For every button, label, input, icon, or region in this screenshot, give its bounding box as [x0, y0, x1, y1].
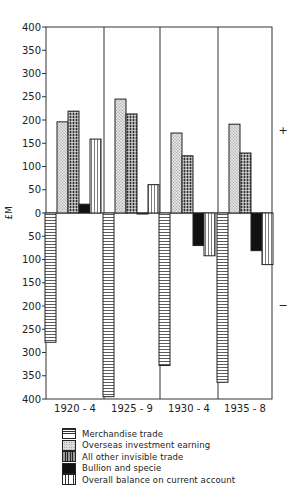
x-tick-label: 1925 - 9	[111, 403, 153, 414]
bar-overall-balance-on-current-account	[90, 139, 101, 213]
y-tick-label: 400	[22, 394, 41, 405]
y-tick-label: 50	[28, 231, 41, 242]
legend: Merchandise tradeOverseas investment ear…	[62, 428, 235, 486]
legend-label: All other invisible trade	[82, 452, 183, 462]
y-tick-label: 250	[22, 324, 41, 335]
bar-chart: 4003503002502001501005005010015020025030…	[0, 0, 294, 425]
bar-overseas-investment-earning	[229, 124, 240, 213]
bar-overseas-investment-earning	[57, 122, 68, 213]
bar-overall-balance-on-current-account	[262, 213, 273, 265]
x-tick-label: 1920 - 4	[54, 403, 96, 414]
legend-item: All other invisible trade	[62, 451, 235, 463]
bar-all-other-invisible-trade	[182, 156, 193, 213]
y-tick-label: 150	[22, 138, 41, 149]
legend-item: Overall balance on current account	[62, 474, 235, 486]
bar-merchandise-trade	[45, 213, 56, 342]
legend-label: Overseas investment earning	[82, 440, 210, 450]
bar-merchandise-trade	[217, 213, 228, 382]
legend-label: Bullion and specie	[82, 463, 161, 473]
y-tick-label: 200	[22, 115, 41, 126]
legend-swatch	[62, 451, 76, 462]
y-tick-label: 300	[22, 68, 41, 79]
y-tick-label: 400	[22, 22, 41, 33]
y-tick-label: 50	[28, 184, 41, 195]
bar-overseas-investment-earning	[171, 133, 182, 213]
bar-bullion-and-specie	[193, 213, 204, 246]
legend-item: Merchandise trade	[62, 428, 235, 440]
y-tick-label: 150	[22, 277, 41, 288]
legend-swatch	[62, 463, 76, 474]
legend-label: Merchandise trade	[82, 429, 163, 439]
y-tick-label: 350	[22, 45, 41, 56]
legend-swatch	[62, 474, 76, 485]
x-tick-label: 1935 - 8	[224, 403, 266, 414]
y-tick-label: 350	[22, 370, 41, 381]
bar-merchandise-trade	[103, 213, 114, 397]
bar-all-other-invisible-trade	[126, 114, 137, 213]
y-axis-label: £M	[4, 206, 14, 220]
bars	[45, 99, 273, 397]
bar-all-other-invisible-trade	[240, 153, 251, 213]
bar-overall-balance-on-current-account	[204, 213, 215, 256]
positive-sign: +	[278, 124, 287, 137]
bar-bullion-and-specie	[79, 204, 90, 213]
negative-sign: −	[278, 299, 287, 312]
legend-label: Overall balance on current account	[82, 475, 235, 485]
y-tick-label: 300	[22, 347, 41, 358]
legend-item: Overseas investment earning	[62, 440, 235, 452]
y-tick-label: 250	[22, 91, 41, 102]
y-tick-label: 200	[22, 301, 41, 312]
legend-swatch	[62, 428, 76, 439]
bar-all-other-invisible-trade	[68, 111, 79, 213]
bar-bullion-and-specie	[137, 213, 148, 214]
bar-merchandise-trade	[159, 213, 170, 366]
x-tick-label: 1930 - 4	[168, 403, 210, 414]
legend-item: Bullion and specie	[62, 463, 235, 475]
y-tick-label: 100	[22, 254, 41, 265]
y-tick-label: 100	[22, 161, 41, 172]
bar-overall-balance-on-current-account	[148, 185, 159, 213]
bar-overseas-investment-earning	[115, 99, 126, 213]
bar-bullion-and-specie	[251, 213, 262, 251]
legend-swatch	[62, 440, 76, 451]
y-tick-label: 0	[35, 208, 41, 219]
